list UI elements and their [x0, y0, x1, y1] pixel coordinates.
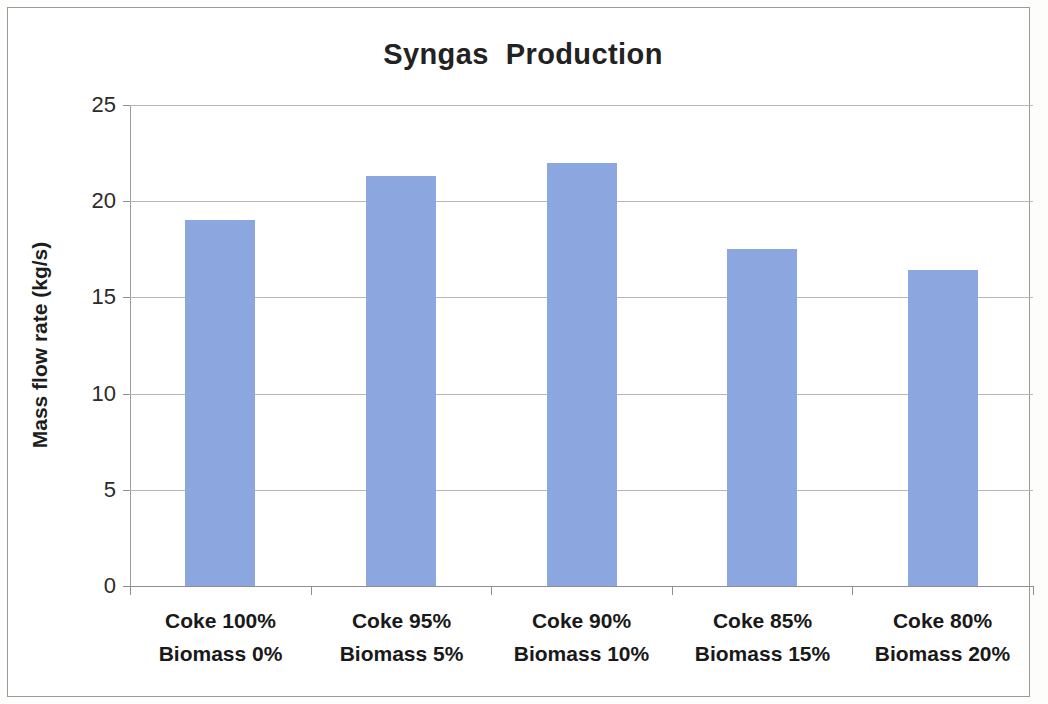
- chart-title: Syngas Production: [8, 38, 1038, 71]
- x-axis-category-label: Coke 80%Biomass 20%: [852, 604, 1033, 670]
- bar: [908, 270, 978, 586]
- x-axis-category-label-line: Biomass 15%: [672, 637, 853, 670]
- bar: [366, 176, 436, 586]
- chart-frame: Syngas Production Mass flow rate (kg/s) …: [7, 7, 1030, 697]
- x-axis-category-label-line: Coke 85%: [672, 604, 853, 637]
- bar: [547, 163, 617, 586]
- y-tick-mark-20: [123, 201, 130, 202]
- x-tick-mark: [311, 586, 312, 595]
- x-axis-category-label-line: Coke 95%: [311, 604, 492, 637]
- x-axis-category-label-line: Coke 100%: [130, 604, 311, 637]
- plot-area: [130, 105, 1033, 586]
- y-axis-tick-labels: 0510152025: [54, 105, 116, 586]
- y-tick-label: 25: [56, 92, 116, 118]
- y-tick-mark-25: [123, 105, 130, 106]
- x-tick-mark: [1033, 586, 1034, 595]
- x-tick-mark: [491, 586, 492, 595]
- y-tick-label: 10: [56, 381, 116, 407]
- x-axis-category-label: Coke 95%Biomass 5%: [311, 604, 492, 670]
- x-tick-mark: [130, 586, 131, 595]
- bar: [727, 249, 797, 586]
- x-tick-mark: [672, 586, 673, 595]
- x-axis-category-label: Coke 90%Biomass 10%: [491, 604, 672, 670]
- y-axis-title: Mass flow rate (kg/s): [28, 195, 52, 495]
- scanned-page-background: Syngas Production Mass flow rate (kg/s) …: [0, 0, 1048, 704]
- y-tick-mark-5: [123, 490, 130, 491]
- y-tick-mark-15: [123, 297, 130, 298]
- x-tick-mark: [852, 586, 853, 595]
- x-axis-category-label-line: Biomass 5%: [311, 637, 492, 670]
- x-axis-category-label-line: Biomass 0%: [130, 637, 311, 670]
- x-axis-category-label-line: Coke 80%: [852, 604, 1033, 637]
- x-axis-category-label-line: Biomass 20%: [852, 637, 1033, 670]
- y-tick-mark-0: [123, 586, 130, 587]
- x-axis-line: [130, 586, 1033, 587]
- x-axis-category-label: Coke 85%Biomass 15%: [672, 604, 853, 670]
- x-axis-category-label: Coke 100%Biomass 0%: [130, 604, 311, 670]
- y-axis-line: [130, 105, 131, 587]
- bar: [185, 220, 255, 586]
- y-tick-label: 15: [56, 284, 116, 310]
- x-axis-tick-labels: Coke 100%Biomass 0%Coke 95%Biomass 5%Cok…: [130, 604, 1033, 684]
- y-tick-label: 0: [56, 573, 116, 599]
- y-tick-label: 5: [56, 477, 116, 503]
- gridline-25: [130, 105, 1033, 106]
- x-axis-category-label-line: Coke 90%: [491, 604, 672, 637]
- y-tick-label: 20: [56, 188, 116, 214]
- x-axis-category-label-line: Biomass 10%: [491, 637, 672, 670]
- y-tick-mark-10: [123, 394, 130, 395]
